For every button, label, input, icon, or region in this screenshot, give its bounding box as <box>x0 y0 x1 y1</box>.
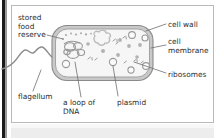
leader-flagellum <box>33 70 41 91</box>
leader-cell-wall <box>146 24 166 31</box>
label-cell-wall: cell wall <box>168 21 198 30</box>
label-stored-food-reserve: stored food reserve <box>18 14 46 40</box>
label-flagellum: flagellum <box>18 93 52 102</box>
label-cell-membrane: cell membrane <box>168 38 208 55</box>
label-ribosomes: ribosomes <box>168 71 206 80</box>
label-plasmid: plasmid <box>117 99 146 108</box>
flagellum-shape <box>2 47 52 69</box>
figure-page: stored food reserve flagellum a loop of … <box>0 0 218 138</box>
label-loop-of-dna: a loop of DNA <box>63 99 95 116</box>
